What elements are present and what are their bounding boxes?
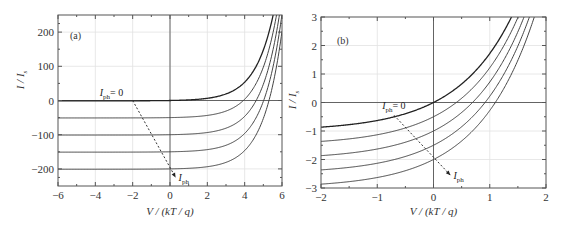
x-tick-label: −2 — [127, 189, 139, 201]
x-tick-label: −4 — [89, 189, 101, 201]
y-tick-label: −2 — [305, 154, 317, 166]
iph-direction-arrow — [394, 115, 450, 175]
y-axis-title: I / Is — [286, 90, 301, 110]
y-tick-label: −200 — [31, 163, 54, 175]
chart-panel-a: −6−4−20246−200−1000100200V / (kT / q)I /… — [14, 0, 285, 218]
iph-zero-label: Iph= 0 — [381, 100, 405, 114]
x-tick-label: 2 — [205, 189, 211, 201]
y-tick-label: 100 — [38, 60, 55, 72]
panel-label: (a) — [70, 30, 81, 42]
y-tick-label: −1 — [305, 125, 317, 137]
y-tick-label: 2 — [312, 40, 318, 52]
chart-panel-b: −2−1012−3−2−10123V / (kT / q)I / Is(b)Ip… — [286, 0, 549, 218]
iph-label: Iph — [452, 170, 464, 184]
y-tick-label: −100 — [31, 129, 54, 141]
y-tick-label: 3 — [312, 11, 318, 23]
x-tick-label: −1 — [371, 191, 383, 203]
x-tick-label: 2 — [543, 191, 549, 203]
x-tick-label: 4 — [242, 189, 248, 201]
x-axis-title: V / (kT / q) — [146, 205, 194, 218]
x-tick-label: 1 — [487, 191, 493, 203]
x-tick-label: 6 — [279, 189, 285, 201]
y-axis-title: I / Is — [14, 70, 29, 90]
y-tick-label: 0 — [312, 97, 318, 109]
y-tick-label: 0 — [49, 95, 55, 107]
iph-direction-arrow — [133, 101, 176, 178]
iph-zero-label: Iph= 0 — [99, 87, 123, 101]
iph-label: Iph — [178, 172, 190, 186]
panel-label: (b) — [337, 35, 349, 47]
figure: −6−4−20246−200−1000100200V / (kT / q)I /… — [0, 0, 562, 229]
arrowhead-icon — [172, 172, 176, 177]
x-tick-label: 0 — [431, 191, 437, 203]
y-tick-label: 200 — [38, 26, 55, 38]
x-tick-label: 0 — [167, 189, 173, 201]
y-tick-label: 1 — [312, 68, 318, 80]
y-tick-label: −3 — [305, 182, 317, 194]
x-axis-title: V / (kT / q) — [410, 205, 458, 218]
x-tick-label: −6 — [52, 189, 64, 201]
